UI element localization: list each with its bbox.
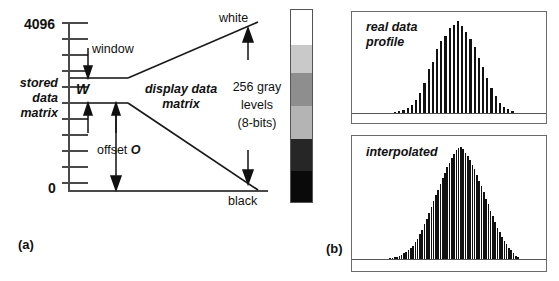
histogram-bar bbox=[428, 69, 430, 113]
histogram-bar bbox=[495, 96, 497, 113]
histogram-bar bbox=[444, 36, 446, 113]
histogram-bar bbox=[449, 28, 451, 113]
histogram-bar bbox=[432, 62, 434, 113]
grayscale-band-white bbox=[291, 10, 312, 45]
histogram-bar bbox=[423, 83, 425, 113]
real-data-bars bbox=[352, 21, 546, 113]
ddm-line2: matrix bbox=[137, 97, 225, 112]
histogram-bar bbox=[419, 93, 421, 113]
white-label: white bbox=[219, 11, 248, 25]
histogram-bar bbox=[482, 67, 484, 113]
offset-label: offset O bbox=[97, 143, 141, 157]
interpolated-baseline bbox=[352, 259, 546, 260]
real-data-plot-area bbox=[352, 12, 546, 123]
histogram-bar bbox=[457, 21, 459, 113]
real-data-baseline bbox=[352, 113, 546, 114]
interpolated-bars bbox=[352, 147, 546, 259]
panel-a-window-level-diagram: 4096 0 stored data matrix window bbox=[0, 0, 290, 281]
display-data-matrix-label: display data matrix bbox=[137, 82, 225, 112]
histogram-bar bbox=[436, 49, 438, 113]
histogram-bar bbox=[469, 39, 471, 113]
panel-a-caption: (a) bbox=[18, 238, 34, 253]
histogram-bar bbox=[474, 47, 476, 113]
histogram-bar bbox=[499, 103, 501, 113]
histogram-bar bbox=[453, 25, 455, 113]
grayscale-ramp-bar bbox=[290, 9, 313, 203]
grayscale-band-light-gray bbox=[291, 45, 312, 74]
window-symbol-label: W bbox=[76, 82, 89, 98]
histogram-bar bbox=[486, 78, 488, 113]
offset-label-text: offset bbox=[97, 143, 131, 157]
ddm-line1: display data bbox=[137, 82, 225, 97]
grayscale-band-dark-gray bbox=[291, 139, 312, 172]
grayscale-band-black bbox=[291, 171, 312, 202]
gray-levels-label: 256 gray levels (8-bits) bbox=[226, 78, 288, 132]
transfer-function-curves bbox=[0, 0, 290, 281]
histogram-bar bbox=[465, 32, 467, 113]
histogram-bar bbox=[478, 58, 480, 113]
window-label: window bbox=[92, 42, 134, 56]
histogram-bar bbox=[415, 100, 417, 113]
real-data-profile-chart: real data profile bbox=[351, 11, 547, 124]
interpolated-plot-area bbox=[352, 136, 546, 271]
histogram-bar bbox=[461, 26, 463, 113]
gray-levels-line1: 256 gray bbox=[226, 78, 288, 96]
histogram-bar bbox=[490, 88, 492, 113]
offset-symbol-label: O bbox=[131, 143, 141, 157]
gray-levels-line2: levels bbox=[226, 96, 288, 114]
grayscale-band-mid-gray bbox=[291, 73, 312, 106]
interpolated-profile-chart: interpolated bbox=[351, 135, 547, 272]
black-label: black bbox=[228, 194, 257, 208]
grayscale-band-gray bbox=[291, 106, 312, 139]
histogram-bar bbox=[440, 41, 442, 113]
gray-levels-line3: (8-bits) bbox=[226, 114, 288, 132]
panel-b-caption: (b) bbox=[326, 242, 343, 257]
